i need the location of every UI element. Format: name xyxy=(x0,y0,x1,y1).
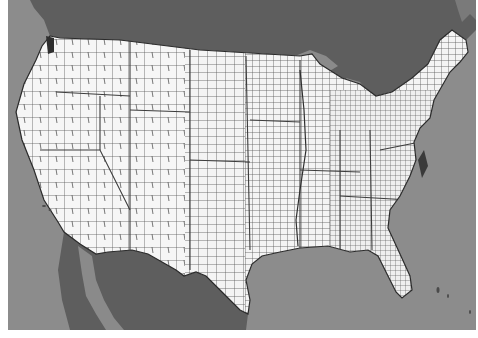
us-county-map xyxy=(8,0,476,330)
map-canvas xyxy=(8,0,476,330)
